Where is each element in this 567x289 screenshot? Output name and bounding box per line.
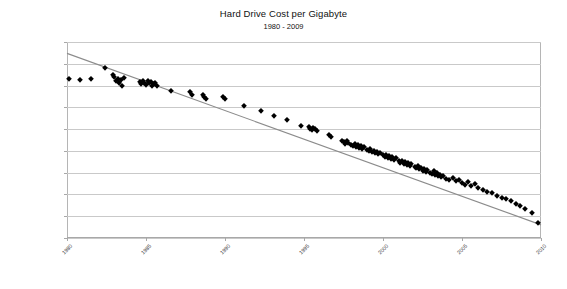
x-tick (67, 238, 68, 241)
x-tick (383, 238, 384, 241)
x-tick (225, 238, 226, 241)
x-tick-label: 1985 (134, 243, 152, 261)
plot-area: $10,000,000.00$1,000,000.00$100,000.00$1… (67, 42, 541, 238)
chart-subtitle: 1980 - 2009 (0, 22, 567, 31)
x-tick-label: 1980 (55, 243, 73, 261)
x-tick (541, 238, 542, 241)
chart-container: Hard Drive Cost per Gigabyte 1980 - 2009… (0, 0, 567, 289)
x-tick (146, 238, 147, 241)
x-tick-label: 2000 (371, 243, 389, 261)
x-tick-label: 1995 (292, 243, 310, 261)
x-tick-label: 2005 (450, 243, 468, 261)
x-tick (304, 238, 305, 241)
x-tick-label: 1990 (213, 243, 231, 261)
trendline (67, 42, 541, 238)
x-tick (462, 238, 463, 241)
chart-title: Hard Drive Cost per Gigabyte (0, 8, 567, 19)
x-tick-label: 2010 (529, 243, 547, 261)
